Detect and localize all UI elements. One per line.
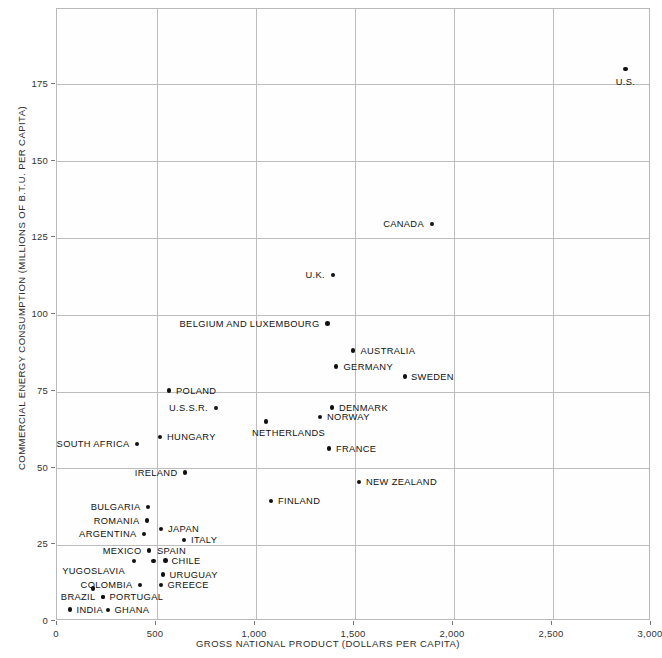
data-label-greece: GREECE bbox=[168, 580, 209, 590]
data-label-colombia: COLOMBIA bbox=[81, 580, 133, 590]
data-point-netherlands bbox=[264, 419, 269, 424]
data-label-australia: AUSTRALIA bbox=[361, 346, 416, 356]
data-label-india: INDIA bbox=[77, 605, 104, 615]
y-tick-label: 0 bbox=[18, 615, 48, 626]
data-label-spain: SPAIN bbox=[157, 546, 186, 556]
y-tick-label: 175 bbox=[18, 78, 48, 89]
gridline-horizontal bbox=[57, 161, 649, 162]
data-label-uruguay: URUGUAY bbox=[170, 570, 218, 580]
gridline-horizontal bbox=[57, 545, 649, 546]
y-tick-label: 25 bbox=[18, 538, 48, 549]
gridline-horizontal bbox=[57, 238, 649, 239]
x-tickmark bbox=[254, 621, 255, 625]
data-point-spain bbox=[151, 559, 156, 564]
data-label-yugoslavia: YUGOSLAVIA bbox=[62, 566, 125, 576]
data-label-france: FRANCE bbox=[336, 444, 376, 454]
data-point-poland bbox=[167, 388, 172, 393]
data-point-chile bbox=[163, 558, 168, 563]
data-point-mexico bbox=[147, 548, 152, 553]
data-point-india bbox=[68, 607, 73, 612]
data-label-brazil: BRAZIL bbox=[61, 592, 96, 602]
y-tickmark bbox=[51, 83, 55, 84]
data-point-sweden bbox=[403, 374, 408, 379]
data-label-sweden: SWEDEN bbox=[411, 372, 454, 382]
x-tickmark bbox=[56, 621, 57, 625]
x-tickmark bbox=[353, 621, 354, 625]
y-tickmark bbox=[51, 467, 55, 468]
data-point-germany bbox=[334, 364, 339, 369]
data-point-romania bbox=[145, 518, 150, 523]
y-tickmark bbox=[51, 390, 55, 391]
data-label-denmark: DENMARK bbox=[339, 403, 388, 413]
data-point-uruguay bbox=[161, 572, 166, 577]
data-label-finland: FINLAND bbox=[278, 496, 320, 506]
data-point-australia bbox=[351, 348, 356, 353]
colombia-extra-dot bbox=[91, 586, 96, 591]
data-label-hungary: HUNGARY bbox=[167, 432, 216, 442]
data-label-ussr: U.S.S.R. bbox=[169, 403, 208, 413]
gridline-horizontal bbox=[57, 392, 649, 393]
data-point-belgium bbox=[325, 321, 330, 326]
gridline-horizontal bbox=[57, 315, 649, 316]
data-point-france bbox=[327, 446, 332, 451]
data-label-argentina: ARGENTINA bbox=[79, 529, 136, 539]
data-label-us: U.S. bbox=[616, 77, 635, 87]
y-tickmark bbox=[51, 620, 55, 621]
x-tickmark bbox=[551, 621, 552, 625]
data-label-romania: ROMANIA bbox=[94, 516, 140, 526]
data-label-netherlands: NETHERLANDS bbox=[252, 428, 325, 438]
data-label-portugal: PORTUGAL bbox=[110, 592, 164, 602]
data-label-ireland: IRELAND bbox=[135, 468, 178, 478]
y-tickmark bbox=[51, 313, 55, 314]
data-label-belgium: BELGIUM AND LUXEMBOURG bbox=[180, 319, 320, 329]
data-point-us bbox=[623, 67, 628, 72]
y-tickmark bbox=[51, 160, 55, 161]
data-label-germany: GERMANY bbox=[344, 362, 393, 372]
data-label-bulgaria: BULGARIA bbox=[91, 502, 141, 512]
data-label-south-africa: SOUTH AFRICA bbox=[57, 439, 130, 449]
data-label-mexico: MEXICO bbox=[103, 546, 142, 556]
data-point-ireland bbox=[183, 470, 188, 475]
x-tickmark bbox=[452, 621, 453, 625]
data-label-canada: CANADA bbox=[383, 219, 424, 229]
data-label-japan: JAPAN bbox=[168, 524, 199, 534]
plot-area bbox=[56, 8, 650, 620]
y-axis-title: COMMERCIAL ENERGY CONSUMPTION (MILLIONS … bbox=[16, 106, 27, 470]
x-tickmark bbox=[650, 621, 651, 625]
data-label-chile: CHILE bbox=[172, 556, 201, 566]
data-label-new-zealand: NEW ZEALAND bbox=[366, 477, 437, 487]
data-label-uk: U.K. bbox=[306, 270, 325, 280]
data-label-poland: POLAND bbox=[176, 386, 216, 396]
data-point-denmark bbox=[330, 405, 335, 410]
data-label-ghana: GHANA bbox=[115, 605, 150, 615]
gridline-horizontal bbox=[57, 84, 649, 85]
x-tickmark bbox=[155, 621, 156, 625]
data-label-norway: NORWAY bbox=[327, 412, 370, 422]
y-tickmark bbox=[51, 543, 55, 544]
y-tickmark bbox=[51, 236, 55, 237]
x-axis-title: GROSS NATIONAL PRODUCT (DOLLARS PER CAPI… bbox=[0, 638, 656, 649]
data-label-italy: ITALY bbox=[191, 535, 217, 545]
